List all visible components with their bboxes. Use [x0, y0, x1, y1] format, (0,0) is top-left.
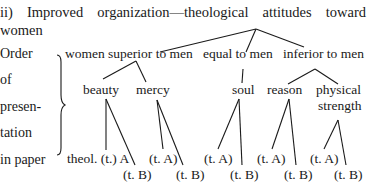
node-mercy: mercy — [136, 82, 170, 98]
node-equal: equal to men — [203, 46, 273, 62]
heading-word: Improved — [27, 4, 83, 21]
heading-line: ii) Improved organization—theological at… — [0, 4, 366, 21]
brace — [57, 55, 65, 155]
leaf-physical-b: (t. B) — [334, 167, 363, 183]
node-physical: physical — [316, 82, 361, 98]
node-inferior: inferior to men — [283, 46, 364, 62]
leaf-beauty-a: theol. (t.) A — [67, 151, 129, 167]
left-label-line: tation — [0, 125, 32, 141]
node-strength: strength — [318, 98, 362, 114]
leaf-soul-a: (t. A) — [204, 151, 233, 167]
node-beauty: beauty — [83, 82, 119, 98]
leaf-beauty-b: (t. B) — [123, 167, 152, 183]
leaf-mercy-b: (t. B) — [176, 167, 205, 183]
heading-word: attitudes — [263, 4, 312, 21]
leaf-mercy-a: (t. A) — [149, 151, 178, 167]
leaf-reason-a: (t. A) — [257, 151, 286, 167]
leaf-reason-b: (t. B) — [284, 167, 313, 183]
left-label-line: in paper — [0, 152, 45, 168]
heading-word: organization—theological — [97, 4, 248, 21]
left-label-line: Order — [0, 46, 33, 62]
node-soul: soul — [232, 82, 255, 98]
node-women-superior: women superior to men — [65, 46, 193, 62]
left-label-line: of — [0, 72, 12, 88]
heading-continuation: women — [0, 22, 43, 38]
left-label-line: presen- — [0, 99, 41, 115]
heading-word: toward — [326, 4, 366, 21]
leaf-physical-a: (t. A) — [310, 151, 339, 167]
leaf-soul-b: (t. B) — [230, 167, 259, 183]
node-reason: reason — [267, 82, 302, 98]
heading-word: ii) — [0, 4, 13, 21]
